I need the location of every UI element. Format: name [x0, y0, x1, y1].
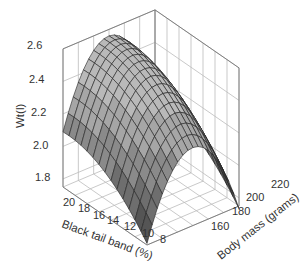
x-tick: 18 [78, 202, 90, 214]
x-tick: 20 [63, 196, 75, 208]
z-tick: 2.4 [29, 73, 44, 85]
x-tick: 8 [160, 233, 166, 245]
x-tick: 10 [142, 227, 154, 239]
x-tick: 12 [124, 220, 136, 232]
x-tick: 14 [107, 214, 119, 226]
z-tick: 2.2 [31, 106, 46, 118]
y-tick: 200 [246, 191, 264, 203]
z-tick: 1.8 [35, 171, 50, 183]
y-tick: 220 [271, 178, 289, 190]
grid-line [155, 10, 239, 68]
surface-chart: 2.6 2.4 2.2 2.0 1.8 Wt(l) 20 18 16 14 12… [0, 0, 306, 269]
y-tick: 180 [232, 205, 250, 217]
z-tick: 2.0 [33, 139, 48, 151]
surface-patch [216, 160, 227, 185]
x-tick: 16 [93, 209, 105, 221]
y-tick: 160 [211, 220, 229, 232]
z-axis-label: Wt(l) [14, 104, 26, 128]
z-tick: 2.6 [27, 39, 42, 51]
